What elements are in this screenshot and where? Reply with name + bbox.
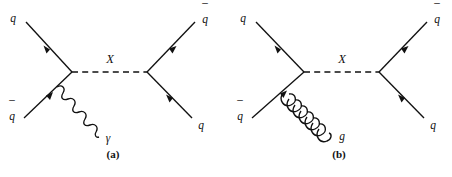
label-photon-a: γ (106, 132, 111, 145)
fermion-line-top-left-b (256, 22, 304, 72)
label-leg-bottom-right-b: q (430, 119, 436, 132)
overbar-leg-bottom-left-b: ̅ (237, 100, 243, 101)
overbar-leg-top-right-b: ̅ (434, 3, 440, 4)
label-leg-top-right-a: q (202, 13, 208, 26)
photon-wavy-line-a (57, 86, 99, 137)
overbar-leg-top-right-a: ̅ (202, 3, 208, 4)
fermion-line-top-right-a (147, 22, 195, 72)
label-mediator-x-a: X (105, 52, 115, 66)
diagram-panel-a: q ̅ q ̅ q q X γ (a) (0, 0, 226, 177)
label-leg-bottom-right-a: q (198, 119, 204, 132)
panel-caption-a: (a) (0, 148, 226, 160)
diagram-panel-b: q ̅ q ̅ q q X g (b) (226, 0, 452, 177)
label-leg-bottom-left-b: q (237, 110, 243, 123)
label-leg-top-left-a: q (10, 12, 16, 25)
fermion-line-top-left-a (26, 22, 72, 72)
fermion-line-top-right-b (379, 22, 427, 72)
label-mediator-x-b: X (337, 52, 347, 66)
label-leg-bottom-left-a: q (9, 110, 15, 123)
label-gluon-b: g (339, 130, 345, 143)
label-leg-top-right-b: q (434, 13, 440, 26)
overbar-leg-bottom-left-a: ̅ (9, 100, 15, 101)
panel-caption-b: (b) (226, 148, 452, 160)
fermion-line-bottom-right-a (147, 72, 192, 118)
gluon-coiled-line-b (281, 93, 331, 142)
feynman-diagram-figure: q ̅ q ̅ q q X γ (a) (0, 0, 452, 177)
label-leg-top-left-b: q (240, 12, 246, 25)
fermion-line-bottom-right-b (379, 72, 424, 118)
